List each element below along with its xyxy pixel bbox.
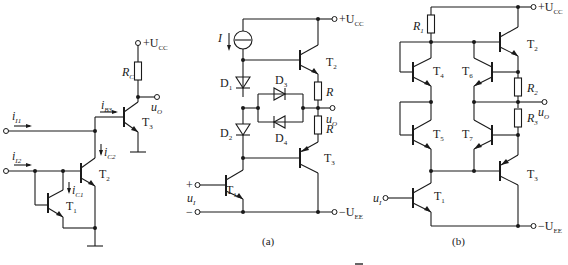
vee-label-b: −UEE xyxy=(538,219,562,235)
circuit-left: +UCC RC uO T3 iI1 iB3 iC2 xyxy=(4,36,169,246)
t6-label: T6 xyxy=(462,64,473,80)
r2-label: R2 xyxy=(526,81,538,97)
resistor-r1 xyxy=(428,15,435,33)
circuit-figure: +UCC RC uO T3 iI1 iB3 iC2 xyxy=(0,0,568,265)
t7-label: T7 xyxy=(462,127,473,143)
input-plus-terminal xyxy=(195,183,200,188)
t1-label-b: T1 xyxy=(434,189,445,205)
t3-label-b: T3 xyxy=(527,167,538,183)
output-terminal xyxy=(155,95,160,100)
ii1-label: iI1 xyxy=(12,109,21,125)
ui-label-b: uI xyxy=(373,191,382,207)
r-top-label: R xyxy=(325,85,334,99)
t1-label: T1 xyxy=(66,199,77,215)
output-terminal-a xyxy=(330,106,335,111)
t3-label-a: T3 xyxy=(324,151,335,167)
d1-label: D1 xyxy=(220,76,233,92)
vcc-terminal-b xyxy=(531,5,536,10)
uo-label-b: uO xyxy=(538,105,549,121)
resistor-r3 xyxy=(515,109,522,127)
vee-terminal xyxy=(332,210,337,215)
input-i2-terminal xyxy=(4,169,9,174)
input-plus-label: + xyxy=(186,178,193,192)
vee-terminal-b xyxy=(531,224,536,229)
vee-label-a: −UEE xyxy=(339,205,363,221)
t1-label-a: T1 xyxy=(226,183,237,199)
current-source-label: I xyxy=(217,31,223,45)
resistor-r-bottom xyxy=(315,116,322,134)
output-terminal-b xyxy=(542,100,547,105)
supply-label: +UCC xyxy=(143,36,168,52)
input-i1-terminal xyxy=(4,129,9,134)
t4-label: T4 xyxy=(433,64,444,80)
resistor-r-top xyxy=(315,82,322,100)
diode-d2 xyxy=(236,124,250,135)
circuit-b: +UCC R1 T2 T4 xyxy=(373,0,563,248)
t5-label: T5 xyxy=(433,127,444,143)
d4-label: D4 xyxy=(275,131,288,147)
resistor-rc xyxy=(135,62,142,80)
vcc-label-b: +UCC xyxy=(538,0,563,16)
t2-label: T2 xyxy=(99,167,110,183)
vcc-label-a: +UCC xyxy=(339,12,364,28)
r-bottom-label: R xyxy=(325,122,334,136)
d2-label: D2 xyxy=(220,126,233,142)
t2-label-a: T2 xyxy=(326,55,337,71)
circuit-a: +UCC I T2 D1 D3 xyxy=(186,12,364,248)
caption-b: (b) xyxy=(452,235,465,248)
input-minus-terminal xyxy=(195,210,200,215)
t3-label: T3 xyxy=(142,115,153,131)
rc-label: RC xyxy=(121,65,134,81)
r1-label: R1 xyxy=(412,19,424,35)
uo-label: uO xyxy=(151,100,162,116)
supply-terminal xyxy=(136,41,141,46)
ic1-label: iC1 xyxy=(72,183,84,199)
d3-label: D3 xyxy=(275,73,288,89)
t2-label-b: T2 xyxy=(527,37,538,53)
ic2-label: iC2 xyxy=(104,145,116,161)
input-minus-label: − xyxy=(186,205,193,219)
input-terminal-b xyxy=(383,196,388,201)
resistor-r2 xyxy=(515,78,522,96)
vcc-terminal xyxy=(332,17,337,22)
r3-label: R3 xyxy=(526,111,538,127)
ii2-label: iI2 xyxy=(12,149,22,165)
caption-a: (a) xyxy=(262,235,275,248)
